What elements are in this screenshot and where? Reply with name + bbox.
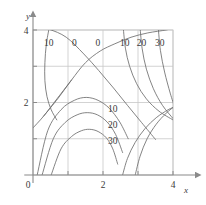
contour-plot-svg: 1000102030102030 02424 x y — [0, 0, 206, 205]
contour-label-7: 20 — [108, 120, 118, 130]
contour-label-4: 20 — [137, 38, 147, 48]
contour-curve-right-20-lower — [135, 106, 175, 175]
contour-curves — [33, 27, 175, 175]
x-axis-label: x — [183, 185, 188, 195]
tick-label-origin: 0 — [26, 180, 31, 190]
contour-plot-figure: 1000102030102030 02424 x y — [0, 0, 206, 205]
contour-label-0: 10 — [44, 38, 54, 48]
contour-curve-zero-line-left — [44, 28, 174, 116]
contour-label-3: 10 — [120, 38, 130, 48]
tick-label-x-4: 4 — [171, 180, 176, 190]
tick-label-y-2: 2 — [24, 98, 29, 108]
contour-label-5: 30 — [155, 38, 165, 48]
contour-curve-right-30-lower — [123, 107, 175, 175]
contour-label-2: 0 — [95, 38, 100, 48]
contour-label-8: 30 — [108, 136, 118, 146]
contour-label-6: 10 — [108, 104, 118, 114]
tick-label-x-2: 2 — [101, 180, 106, 190]
tick-labels: 02424 — [24, 26, 176, 191]
tick-label-y-4: 4 — [24, 26, 29, 36]
y-axis-label: y — [25, 11, 30, 21]
contour-label-1: 0 — [72, 38, 77, 48]
